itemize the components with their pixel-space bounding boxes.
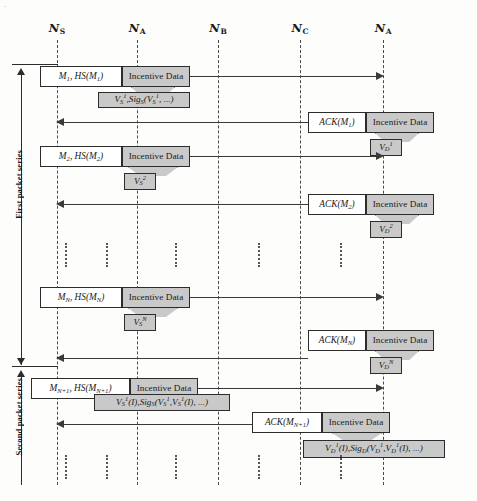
sequence-diagram-figure: . NS NA NB NC NA First packet series Sec… — [0, 0, 477, 501]
arrow-head-ackn — [56, 354, 64, 362]
message-label-ackn: ACK(MN) — [319, 336, 355, 345]
callout-body-m1: VS1, SigS(VS1, ...) — [98, 92, 190, 108]
message-box-ack2: ACK(M2) — [308, 194, 366, 215]
incentive-box-ack1: Incentive Data — [366, 112, 434, 133]
callout-body-mn: VSN — [124, 314, 156, 331]
lifeline-label-nb: NB — [209, 21, 226, 35]
arrow-ackn — [63, 358, 308, 359]
arrow-head-m1 — [376, 72, 384, 80]
callout-body-ackn1: VD1(I), SigD(VD1, VD1(I), ...) — [303, 440, 445, 458]
arrow-ack2 — [63, 204, 308, 205]
callout-body-ackn: VDN — [370, 357, 402, 374]
first-series-bottom-tick — [12, 366, 58, 367]
first-series-arrow-down — [17, 358, 25, 365]
message-label-mn: MN, HS(MN) — [58, 293, 105, 302]
lifeline-sub-nb: B — [220, 27, 227, 36]
callout-body-ack1: VD1 — [370, 139, 402, 156]
lifeline-base-nb: N — [209, 21, 220, 35]
incentive-box-ack2: Incentive Data — [366, 194, 434, 215]
arrow-m2 — [190, 156, 378, 157]
arrow-mn1 — [198, 388, 378, 389]
message-box-ack1: ACK(M1) — [308, 112, 366, 133]
lifeline-sub-na: A — [140, 27, 146, 36]
incentive-box-mn: Incentive Data — [122, 287, 190, 308]
first-series-top-tick — [12, 64, 58, 65]
message-box-m2: M2, HS(M2) — [40, 146, 122, 167]
lifeline-label-ns: NS — [49, 21, 65, 35]
callout-body-mn1: VS1(I), SigS(VS1, VS1(I), ...) — [94, 394, 230, 411]
arrow-head-ack2 — [56, 200, 64, 208]
message-label-m1: M1, HS(M1) — [59, 72, 103, 81]
lifeline-ns — [57, 40, 58, 485]
lifeline-nb — [218, 40, 219, 485]
lifeline-label-na: NA — [129, 21, 146, 35]
ellipsis-dots-1 — [65, 243, 69, 267]
ellipsis-dots-5 — [340, 243, 344, 267]
lifeline-sub-na-dest: A — [386, 27, 392, 36]
bottom-ellipsis-dots-3 — [175, 455, 179, 479]
arrow-head-ack1 — [56, 118, 64, 126]
message-box-ackn: ACK(MN) — [308, 330, 366, 351]
message-box-mn: MN, HS(MN) — [40, 287, 122, 308]
corner-mark: . — [4, 1, 6, 9]
incentive-box-ackn: Incentive Data — [366, 330, 434, 351]
lifeline-label-na-dest: NA — [375, 21, 392, 35]
ellipsis-dots-2 — [106, 243, 110, 267]
lifeline-base-na-dest: N — [375, 21, 386, 35]
message-box-ackn1: ACK(MN+1) — [252, 412, 322, 433]
first-series-label: First packet series — [14, 150, 24, 219]
ellipsis-dots-3 — [175, 243, 179, 267]
message-label-ack1: ACK(M1) — [319, 118, 354, 127]
bottom-ellipsis-dots-4 — [258, 455, 262, 479]
lifeline-sub-nc: C — [303, 27, 309, 36]
ellipsis-dots-4 — [258, 243, 262, 267]
callout-body-m2: VS2 — [124, 173, 156, 190]
message-label-mn1: MN+1, HS(MN+1) — [49, 384, 111, 393]
arrow-mn — [190, 297, 378, 298]
lifeline-sub-ns: S — [60, 27, 66, 36]
incentive-box-ackn1: Incentive Data — [322, 412, 390, 433]
bottom-ellipsis-dots-2 — [106, 455, 110, 479]
callout-body-ack2: VD2 — [370, 221, 402, 238]
incentive-box-m2: Incentive Data — [122, 146, 190, 167]
arrow-head-mn — [376, 293, 384, 301]
lifeline-label-nc: NC — [292, 21, 309, 35]
bottom-ellipsis-dots-1 — [65, 455, 69, 479]
incentive-box-m1: Incentive Data — [122, 66, 190, 87]
lifeline-base-ns: N — [49, 21, 60, 35]
second-series-label: Second packet series — [14, 378, 24, 455]
arrow-head-mn1 — [376, 384, 384, 392]
lifeline-base-nc: N — [292, 21, 303, 35]
message-label-ackn1: ACK(MN+1) — [265, 418, 309, 427]
arrow-head-m2 — [376, 152, 384, 160]
message-label-ack2: ACK(M2) — [319, 200, 354, 209]
message-box-m1: M1, HS(M1) — [40, 66, 122, 87]
arrow-ack1 — [63, 122, 308, 123]
arrow-head-ackn1 — [56, 420, 64, 428]
message-label-m2: M2, HS(M2) — [59, 152, 103, 161]
lifeline-base-na: N — [129, 21, 140, 35]
bottom-ellipsis-dots-5 — [340, 455, 344, 479]
arrow-m1 — [190, 76, 378, 77]
